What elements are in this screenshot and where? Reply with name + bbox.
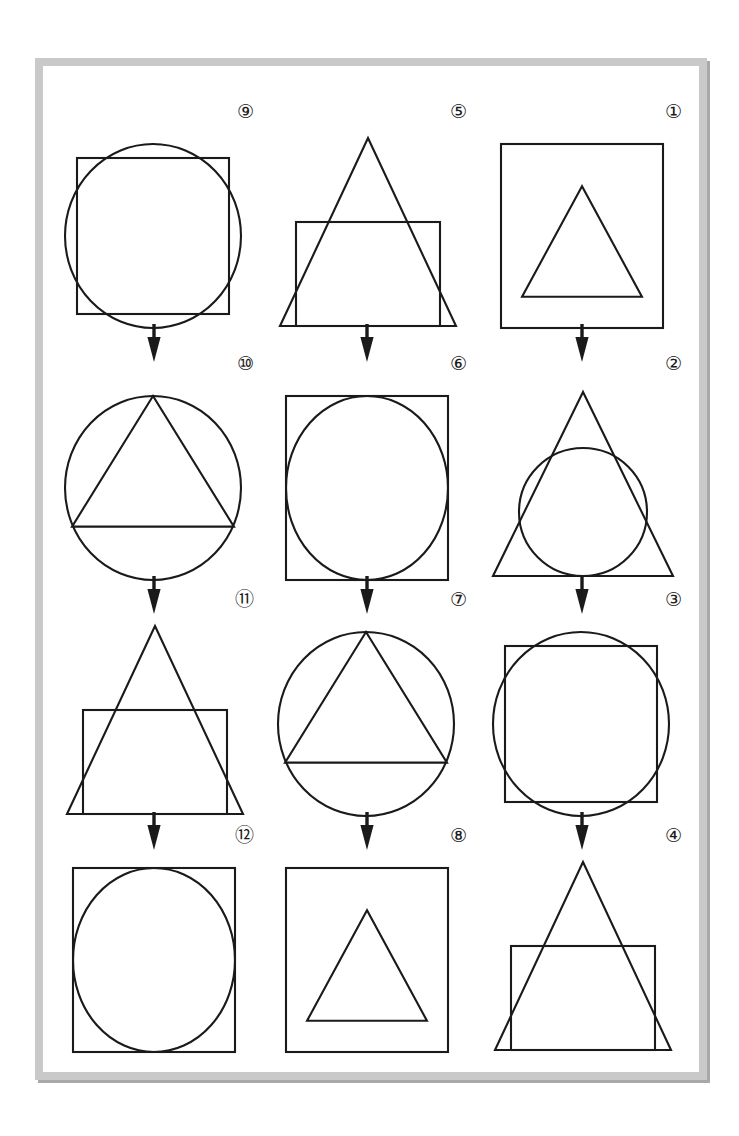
down-arrow-icon — [141, 324, 167, 364]
figure-cell-9: ⑨ — [55, 102, 260, 352]
down-arrow-icon — [354, 324, 380, 364]
figure-number-badge: ① — [665, 102, 682, 121]
down-arrow-icon — [141, 812, 167, 852]
figure-cell-12: ⑫ — [55, 826, 260, 1076]
circle-with-triangle-figure — [55, 380, 260, 595]
square-with-triangle-figure — [483, 128, 688, 343]
square-with-circle-figure — [268, 380, 473, 595]
figure-number-badge: ⑧ — [450, 826, 467, 845]
down-arrow-icon — [141, 576, 167, 616]
down-arrow-icon — [354, 812, 380, 852]
figure-number-badge: ⑪ — [235, 590, 254, 609]
figure-number-badge: ④ — [665, 826, 682, 845]
figure-cell-2: ② — [483, 354, 688, 604]
figure-cell-8: ⑧ — [268, 826, 473, 1076]
triangle-with-square-figure — [483, 852, 688, 1067]
down-arrow-icon — [569, 812, 595, 852]
figure-number-badge: ② — [665, 354, 682, 373]
square-with-triangle-figure — [268, 852, 473, 1067]
circle-with-triangle-figure — [268, 616, 473, 831]
figure-cell-5: ⑤ — [268, 102, 473, 352]
down-arrow-icon — [354, 576, 380, 616]
figure-cell-6: ⑥ — [268, 354, 473, 604]
square-with-circle-figure — [55, 852, 260, 1067]
figure-cell-10: ⑩ — [55, 354, 260, 604]
triangle-with-square-figure — [55, 616, 260, 831]
figure-number-badge: ③ — [665, 590, 682, 609]
down-arrow-icon — [569, 324, 595, 364]
figure-number-badge: ⑤ — [450, 102, 467, 121]
down-arrow-icon — [569, 576, 595, 616]
figure-cell-4: ④ — [483, 826, 688, 1076]
triangle-with-circle-figure — [483, 380, 688, 595]
figure-number-badge: ⑦ — [450, 590, 467, 609]
figure-number-badge: ⑩ — [237, 354, 254, 373]
triangle-with-square-figure — [268, 128, 473, 343]
figure-number-badge: ⑨ — [237, 102, 254, 121]
figure-grid: ⑨⑤①⑩⑥②⑪⑦③⑫⑧④ — [43, 66, 699, 1072]
worksheet-page: ⑨⑤①⑩⑥②⑪⑦③⑫⑧④ — [0, 0, 739, 1136]
circle-with-square-figure — [483, 616, 688, 831]
figure-cell-11: ⑪ — [55, 590, 260, 840]
figure-number-badge: ⑥ — [450, 354, 467, 373]
figure-cell-3: ③ — [483, 590, 688, 840]
circle-with-square-figure — [55, 128, 260, 343]
figure-number-badge: ⑫ — [235, 826, 254, 845]
figure-cell-1: ① — [483, 102, 688, 352]
figure-cell-7: ⑦ — [268, 590, 473, 840]
